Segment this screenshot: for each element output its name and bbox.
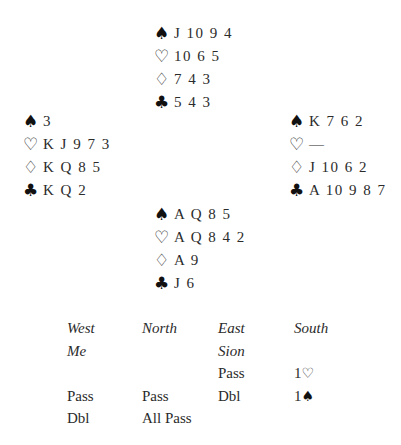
bid-level: 1	[294, 365, 302, 381]
player-west: Me	[67, 341, 86, 361]
bid-r2-north: Pass	[142, 386, 169, 406]
header-west: West	[67, 318, 95, 338]
spade-icon: ♠	[302, 388, 315, 404]
auction-table: West North East South Me Sion Pass 1♡ Pa…	[0, 0, 401, 445]
bid-level: 1	[294, 388, 302, 404]
bid-r3-west: Dbl	[67, 408, 90, 428]
bid-r1-south: 1♡	[294, 363, 314, 383]
header-south: South	[294, 318, 328, 338]
bid-r2-south: 1♠	[294, 386, 314, 406]
header-east: East	[218, 318, 245, 338]
bid-r3-north: All Pass	[142, 408, 192, 428]
player-east: Sion	[218, 341, 245, 361]
heart-icon: ♡	[302, 365, 315, 381]
bid-r2-east: Dbl	[218, 386, 241, 406]
bid-r1-east: Pass	[218, 363, 245, 383]
bid-r2-west: Pass	[67, 386, 94, 406]
header-north: North	[142, 318, 177, 338]
